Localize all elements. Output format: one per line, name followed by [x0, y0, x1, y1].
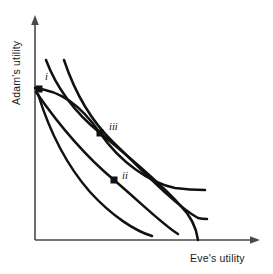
curve-indifference-upper — [64, 60, 207, 219]
label-point-ii: ii — [122, 170, 128, 181]
y-axis-label: Adam's utility — [10, 40, 22, 105]
point-dot-ii — [111, 177, 118, 184]
label-point-iii: iii — [109, 121, 118, 132]
point-labels-group: i iii ii — [45, 71, 128, 181]
y-axis-group — [31, 15, 39, 240]
utility-diagram-figure: i iii ii Adam's utility Eve's utility — [0, 0, 273, 274]
curve-lower-through-ii — [36, 92, 178, 234]
y-axis-arrowhead — [31, 15, 39, 25]
x-axis-label: Eve's utility — [190, 252, 245, 264]
curve-utility-possibility-frontier — [35, 88, 205, 190]
label-point-i: i — [45, 71, 48, 82]
point-dot-i — [36, 86, 43, 93]
x-axis-arrowhead — [250, 236, 260, 244]
diagram-canvas: i iii ii Adam's utility Eve's utility — [0, 0, 273, 274]
point-dot-iii — [97, 130, 104, 137]
curves-group — [35, 60, 207, 240]
x-axis-group — [35, 236, 260, 244]
